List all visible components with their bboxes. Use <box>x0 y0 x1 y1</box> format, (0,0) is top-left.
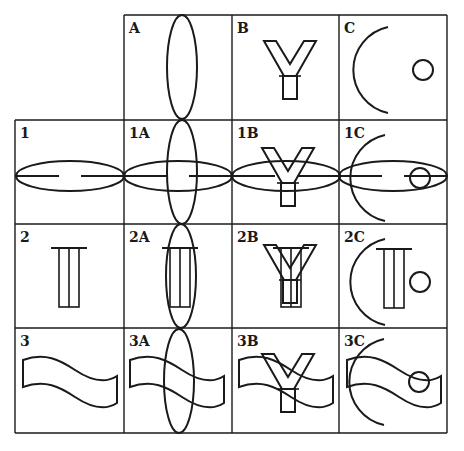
cell-label: 3A <box>129 333 151 349</box>
cell-B: B <box>237 20 316 99</box>
cell-label: 1B <box>237 125 259 141</box>
cell-label: 3B <box>237 333 259 349</box>
symbol-matrix-figure: A B C 1 1A 1B 1C 2 2A 2B <box>0 0 464 451</box>
y-shape <box>264 245 316 303</box>
cell-label: 3 <box>20 333 30 349</box>
cell-label: 1 <box>20 125 30 141</box>
horizontal-ellipse-shape <box>16 161 124 191</box>
wavy-banner-shape <box>23 357 117 408</box>
cell-2B: 2B <box>237 229 316 307</box>
vertical-ellipse-shape <box>167 120 197 224</box>
cell-label: 3C <box>344 333 365 349</box>
horizontal-ellipse-shape <box>232 161 340 191</box>
cell-label: 1C <box>344 125 365 141</box>
horizontal-ellipse-shape <box>124 161 232 191</box>
cell-3C: 3C <box>344 333 441 425</box>
cell-label: 1A <box>129 125 151 141</box>
cell-label: B <box>237 20 249 36</box>
vertical-ellipse-shape <box>167 15 197 119</box>
barred-column-shape <box>376 249 412 308</box>
cell-1A: 1A <box>124 120 232 224</box>
cell-3: 3 <box>20 333 117 407</box>
cell-C: C <box>344 20 433 113</box>
cell-3B: 3B <box>237 333 333 412</box>
cell-3A: 3A <box>129 329 224 433</box>
cell-label: 2C <box>344 229 365 245</box>
barred-column-shape <box>51 248 87 307</box>
wavy-banner-shape <box>347 357 441 408</box>
horizontal-ellipse-shape <box>339 161 447 191</box>
barred-column-shape <box>273 248 309 307</box>
y-shape <box>264 41 316 99</box>
cell-1C: 1C <box>339 125 447 221</box>
cell-label: A <box>128 20 141 36</box>
cell-label: C <box>344 20 355 36</box>
wavy-banner-shape <box>239 357 333 408</box>
arc-circle-shape <box>350 135 430 221</box>
cell-1B: 1B <box>232 125 340 206</box>
grid-lines <box>15 15 447 433</box>
arc-circle-shape <box>353 27 433 113</box>
vertical-ellipse-shape <box>164 329 194 433</box>
cell-2A: 2A <box>129 224 198 328</box>
cell-A: A <box>128 15 197 119</box>
wavy-banner-shape <box>130 357 224 408</box>
arc-circle-shape <box>349 339 429 425</box>
cell-2: 2 <box>20 229 87 307</box>
arc-circle-shape <box>350 239 430 325</box>
cell-label: 2A <box>129 229 151 245</box>
cell-2C: 2C <box>344 229 430 325</box>
cell-1: 1 <box>16 125 124 191</box>
cell-label: 2B <box>237 229 259 245</box>
cell-label: 2 <box>20 229 30 245</box>
y-shape <box>262 354 314 412</box>
